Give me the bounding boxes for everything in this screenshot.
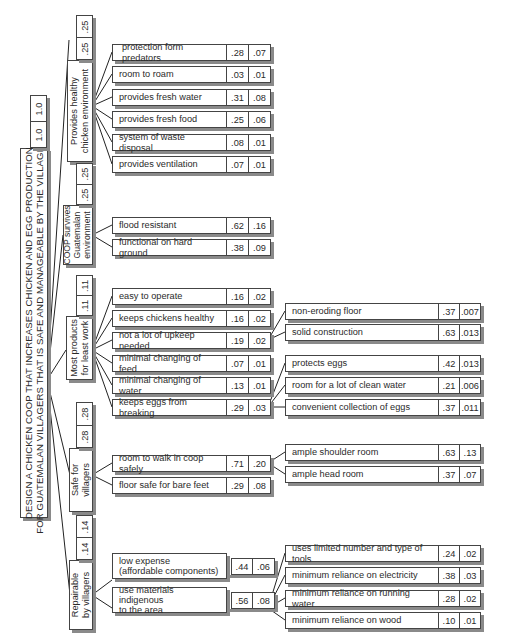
- subobjective-row: easy to operate .16 .02: [112, 288, 271, 305]
- objective-repairable: Repairable by villagers: [69, 560, 93, 630]
- connector-healthy-c5: [92, 106, 112, 164]
- repair-weights: .14 .14: [76, 515, 93, 560]
- root-local-weight: 1.0: [30, 121, 47, 148]
- connector-coop-c1: [92, 235, 112, 247]
- subobjective-row: flood resistant .62 .16: [112, 217, 271, 234]
- detail-row: uses limited number and type of tools .2…: [285, 545, 481, 562]
- subobjective-row: provides ventilation .07 .01: [112, 156, 271, 173]
- subobjective-row: provides fresh food .25 .06: [112, 111, 271, 128]
- repair-global-weight: .14: [76, 515, 93, 538]
- detail-row: ample shoulder room .63 .13: [285, 444, 481, 461]
- detail-row: solid construction .63 .013: [285, 324, 481, 341]
- subobjective-row: use materials indigenous to the area .56…: [112, 587, 275, 613]
- repair-local-weight: .14: [76, 537, 93, 560]
- connector-products-c3: [92, 350, 112, 363]
- root-weights: 1.0 1.0: [30, 95, 47, 148]
- connector-healthy-c3: [92, 106, 112, 119]
- detail-row: room for a lot of clean water .21 .006: [285, 377, 481, 394]
- safe-local-weight: .28: [76, 425, 93, 448]
- objective-healthy-environment: Provides healthy chicken environment: [67, 60, 93, 162]
- detail-row: minimum reliance on wood .10 .01: [285, 612, 481, 629]
- subobjective-row: keeps eggs from breaking .29 .03: [112, 399, 271, 416]
- subobjective-row: low expense (affordable components) .44 …: [112, 553, 275, 579]
- healthy-weights: .25 .25: [76, 15, 93, 60]
- subobjective-row: minimal changing of water .13 .01: [112, 377, 271, 394]
- coop-weights: .25 .25: [76, 163, 93, 205]
- subobjective-row: minimal changing of feed .07 .01: [112, 355, 271, 372]
- coop-local-weight: .25: [76, 184, 93, 205]
- objective-safe-for-villagers: Safe for villagers: [69, 448, 93, 512]
- root-global-weight: 1.0: [30, 95, 47, 122]
- connector-repair-c1: [92, 595, 112, 608]
- subobjective-row: floor safe for bare feet .29 .08: [112, 477, 271, 494]
- connector-safe-c0: [92, 463, 112, 475]
- objective-most-products: Most products for least work: [66, 316, 93, 380]
- healthy-global-weight: .25: [76, 15, 93, 38]
- detail-row: minimum reliance on electricity .38 .03: [285, 567, 481, 584]
- safe-global-weight: .28: [76, 402, 93, 426]
- subobjective-row: provides fresh water .31 .08: [112, 89, 271, 106]
- root-title-line1: DESIGN A CHICKEN COOP THAT INCREASES CHI…: [23, 132, 34, 533]
- products-weights: .11 .11: [76, 275, 93, 316]
- detail-row: convenient collection of eggs .37 .011: [285, 399, 481, 416]
- connector-products-c5: [92, 350, 112, 407]
- connector-safe-c1: [92, 475, 112, 485]
- detail-row: non-eroding floor .37 .007: [285, 303, 481, 320]
- coop-global-weight: .25: [76, 163, 93, 185]
- connector-repair-c0: [92, 580, 112, 595]
- root-title-line2: FOR GUATEMALAN VILLAGERS THAT IS SAFE AN…: [34, 132, 45, 533]
- subobjective-row: system of waste disposal .08 .01: [112, 134, 271, 151]
- healthy-local-weight: .25: [76, 37, 93, 60]
- subobjective-row: protection form predators .28 .07: [112, 44, 271, 61]
- root-goal-box: DESIGN A CHICKEN COOP THAT INCREASES CHI…: [20, 148, 48, 518]
- detail-row: protects eggs .42 .013: [285, 355, 481, 372]
- connector-root-safe: [47, 380, 70, 475]
- subobjective-row: not a lot of upkeep needed .19 .02: [112, 332, 271, 349]
- subobjective-row: room to roam .03 .01: [112, 66, 271, 83]
- connector-coop-c0: [92, 225, 112, 235]
- products-local-weight: .11: [76, 295, 93, 316]
- subobjective-row: functional on hard ground .38 .09: [112, 239, 271, 256]
- connector-healthy-c4: [92, 106, 112, 142]
- detail-row: minimum reliance on running water .28 .0…: [285, 590, 481, 607]
- objective-coop-survives: COOP survives Guatemalan environment: [63, 205, 93, 265]
- detail-row: ample head room .37 .07: [285, 466, 481, 483]
- products-global-weight: .11: [76, 275, 93, 296]
- subobjective-row: room to walk in coop safely .71 .20: [112, 455, 271, 472]
- safe-weights: .28 .28: [76, 402, 93, 448]
- connector-root-repair: [47, 380, 70, 595]
- subobjective-row: keeps chickens healthy .16 .02: [112, 310, 271, 327]
